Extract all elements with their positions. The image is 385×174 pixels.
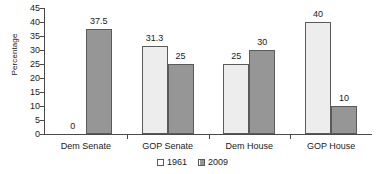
bar-value-label: 30: [249, 38, 275, 47]
x-axis-group-separator: [127, 134, 128, 139]
x-axis-group-separator: [209, 134, 210, 139]
y-axis-tick-label: 25: [18, 60, 40, 69]
y-axis-tick-labels: 454035302520151050: [14, 0, 40, 174]
legend-label: 2009: [208, 157, 228, 167]
bar-value-label: 40: [305, 10, 331, 19]
y-axis-tick-label: 40: [18, 18, 40, 27]
legend-swatch-icon: [198, 159, 205, 166]
x-axis-category-label: Dem Senate: [45, 141, 127, 151]
bar-value-label: 25: [223, 52, 249, 61]
y-axis-tick-label: 45: [18, 4, 40, 13]
y-axis-tick-mark: [40, 8, 44, 9]
y-axis-tick-label: 10: [18, 102, 40, 111]
bar: [86, 29, 112, 134]
bar-value-label: 31.3: [142, 34, 168, 43]
x-axis-category-label: Dem House: [209, 141, 291, 151]
chart-legend: 19612009: [0, 157, 385, 167]
y-axis-tick-mark: [40, 106, 44, 107]
legend-item[interactable]: 1961: [157, 157, 187, 167]
bar-value-label: 25: [168, 52, 194, 61]
y-axis-tick-label: 5: [18, 116, 40, 125]
y-axis-tick-mark: [40, 78, 44, 79]
bar: [249, 50, 275, 134]
legend-swatch-icon: [157, 159, 164, 166]
y-axis-tick-mark: [40, 36, 44, 37]
y-axis-tick-mark: [40, 64, 44, 65]
y-axis-tick-mark: [40, 92, 44, 93]
bar: [223, 64, 249, 134]
bar-chart: Percentage 454035302520151050 037.531.32…: [0, 0, 385, 174]
bar-value-label: 10: [331, 94, 357, 103]
bar: [142, 46, 168, 134]
y-axis-tick-label: 0: [18, 130, 40, 139]
y-axis-tick-label: 20: [18, 74, 40, 83]
y-axis-tick-label: 30: [18, 46, 40, 55]
bar-value-label: 37.5: [86, 17, 112, 26]
y-axis-tick-label: 35: [18, 32, 40, 41]
bar: [331, 106, 357, 134]
x-axis-category-label: GOP House: [290, 141, 372, 151]
x-axis-category-label: GOP Senate: [127, 141, 209, 151]
y-axis-tick-mark: [40, 22, 44, 23]
legend-label: 1961: [167, 157, 187, 167]
plot-area: 037.531.32525304010: [45, 8, 372, 134]
bar: [168, 64, 194, 134]
y-axis-tick-label: 15: [18, 88, 40, 97]
bar: [305, 22, 331, 134]
y-axis-tick-mark: [40, 120, 44, 121]
y-axis-tick-mark: [40, 134, 44, 135]
legend-item[interactable]: 2009: [198, 157, 228, 167]
bar-value-label: 0: [60, 122, 86, 131]
x-axis-group-separator: [290, 134, 291, 139]
y-axis-tick-mark: [40, 50, 44, 51]
